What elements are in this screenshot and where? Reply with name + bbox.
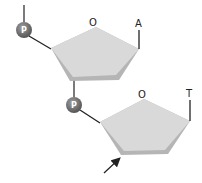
bond-phosphate2-sugar2 (80, 110, 100, 123)
phosphate-label-2: P (71, 101, 77, 110)
dinucleotide-diagram: O A O T P P (0, 0, 202, 183)
bond-phosphate1-sugar1 (29, 36, 51, 49)
ring-oxygen-label-1: O (89, 17, 97, 28)
pointer-arrow-icon (104, 159, 119, 173)
sugar-ring-1: O (51, 17, 139, 81)
phosphate-1: P (16, 22, 32, 38)
base-label-t: T (185, 88, 193, 99)
phosphate-label-1: P (21, 26, 27, 35)
phosphate-2: P (66, 97, 82, 113)
sugar-ring-2: O (100, 89, 190, 155)
ring-oxygen-label-2: O (138, 89, 146, 100)
base-label-a: A (135, 18, 142, 29)
